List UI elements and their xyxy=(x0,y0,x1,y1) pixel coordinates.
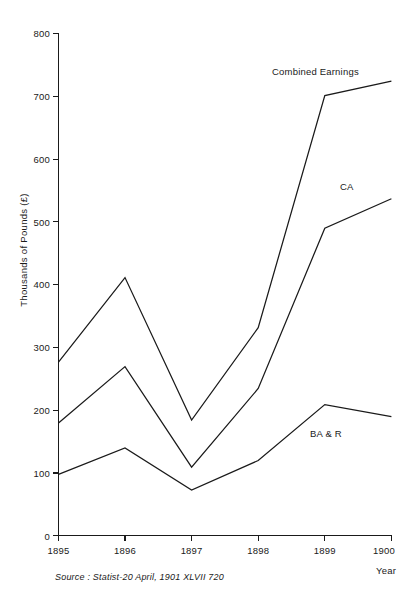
y-tick-label-600: 600 xyxy=(34,154,50,165)
y-tick-label-0: 0 xyxy=(45,531,50,542)
x-tick-label-1897: 1897 xyxy=(181,545,203,556)
series-label-combined-earnings: Combined Earnings xyxy=(272,66,359,77)
chart-figure: 800 700 600 500 400 300 200 100 0 1895 1… xyxy=(0,0,403,607)
y-tick-label-700: 700 xyxy=(34,91,50,102)
y-tick-label-300: 300 xyxy=(34,342,50,353)
series-label-ba-and-r: BA & R xyxy=(310,428,342,439)
y-tick-label-400: 400 xyxy=(34,279,50,290)
x-tick-label-1895: 1895 xyxy=(48,545,70,556)
x-tick-label-1899: 1899 xyxy=(314,545,336,556)
series-line-combined-earnings xyxy=(59,81,392,420)
y-axis-title: Thousands of Pounds (£) xyxy=(18,193,29,307)
x-axis-title: Year xyxy=(376,565,396,576)
y-tick-label-200: 200 xyxy=(34,405,50,416)
series-line-ca xyxy=(59,199,392,468)
y-tick-label-500: 500 xyxy=(34,217,50,228)
x-tick-label-1896: 1896 xyxy=(114,545,136,556)
x-tick-label-1898: 1898 xyxy=(247,545,269,556)
series-line-ba-and-r xyxy=(59,405,392,490)
y-tick-label-800: 800 xyxy=(34,28,50,39)
source-note: Source : Statist-20 April, 1901 XLVII 72… xyxy=(55,572,224,582)
y-tick-label-100: 100 xyxy=(34,468,50,479)
x-axis-ticks: 1895 1896 1897 1898 1899 1900 xyxy=(48,536,395,557)
y-axis-ticks: 800 700 600 500 400 300 200 100 0 xyxy=(34,28,59,542)
x-tick-label-1900: 1900 xyxy=(373,545,395,556)
line-chart-canvas: 800 700 600 500 400 300 200 100 0 1895 1… xyxy=(0,0,403,607)
series-label-ca: CA xyxy=(340,181,354,192)
